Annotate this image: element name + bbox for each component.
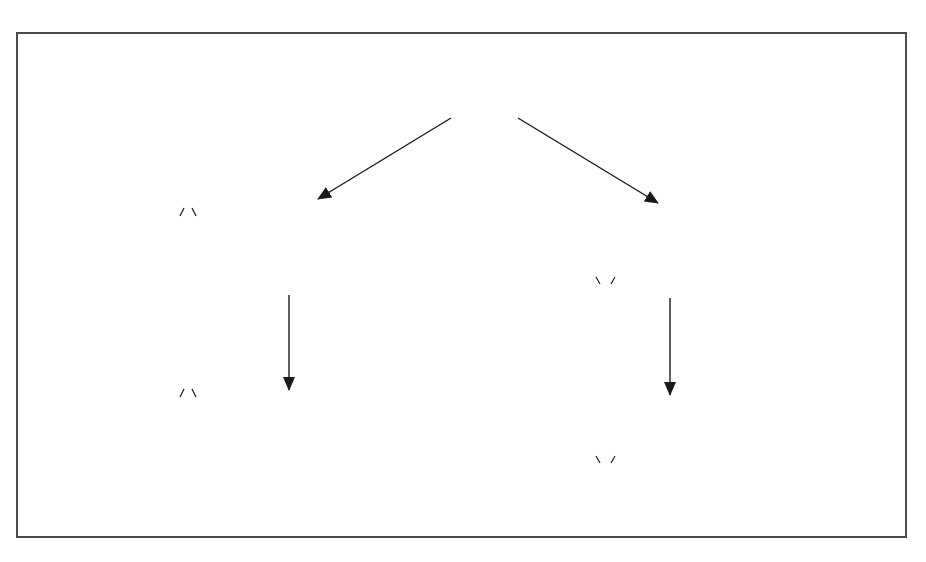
arrow-misalign-left	[318, 118, 451, 199]
arrows-layer	[0, 0, 926, 562]
arrow-misalign-right	[518, 118, 658, 203]
